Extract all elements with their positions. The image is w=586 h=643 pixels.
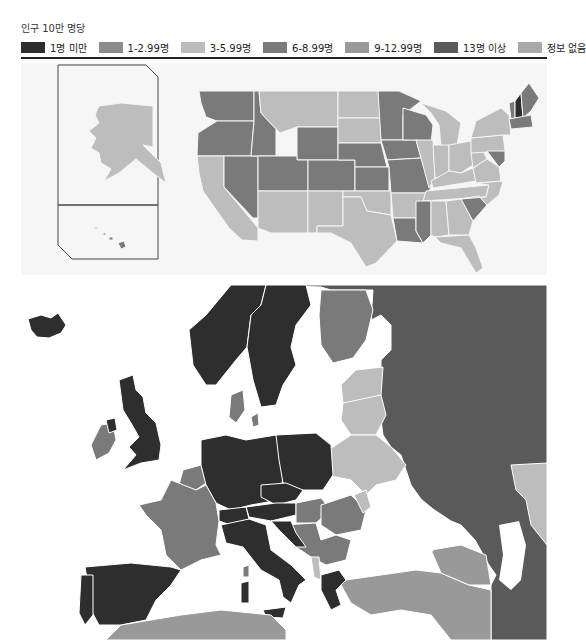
state-wisconsin [403, 108, 433, 143]
state-north-dakota [338, 91, 381, 118]
legend-item-6-8.99: 6-8.99명 [263, 40, 333, 55]
legend-label: 6-8.99명 [292, 40, 333, 55]
legend-item-under-1: 1명 미만 [21, 40, 87, 55]
state-vermont [509, 101, 515, 119]
state-utah [258, 156, 308, 191]
country-spain [85, 563, 181, 625]
country-denmark-islands [251, 413, 259, 427]
country-iceland [28, 313, 66, 338]
legend-swatch [434, 42, 458, 53]
us-map [21, 63, 547, 275]
legend-swatch [99, 42, 123, 53]
country-uk [119, 375, 161, 470]
country-france [139, 480, 221, 570]
country-albania [311, 557, 321, 580]
state-washington [199, 91, 254, 121]
black-sea [376, 513, 441, 557]
state-colorado [308, 160, 355, 191]
legend-label: 13명 이상 [463, 40, 506, 55]
state-alaska [89, 103, 166, 183]
country-finland [319, 290, 373, 363]
state-arizona [258, 191, 308, 233]
country-portugal [79, 575, 93, 625]
legend-item-13-plus: 13명 이상 [434, 40, 506, 55]
legend-item-3-5.99: 3-5.99명 [181, 40, 251, 55]
state-kansas [355, 167, 389, 191]
legend-divider [21, 57, 547, 59]
europe-map-svg [21, 285, 547, 640]
state-oregon [197, 121, 254, 156]
legend-swatch [345, 42, 369, 53]
country-denmark [229, 390, 245, 423]
hawaii-inset-frame [58, 205, 158, 259]
legend-swatch [263, 42, 287, 53]
europe-map [21, 285, 547, 640]
state-iowa [381, 140, 421, 160]
country-greece [321, 570, 346, 610]
legend-item-1-2.99: 1-2.99명 [99, 40, 169, 55]
country-sardinia [241, 581, 249, 603]
state-hawaii [95, 227, 126, 249]
legend-item-9-12.99: 9-12.99명 [345, 40, 422, 55]
legend-label: 1명 미만 [50, 40, 87, 55]
country-poland [276, 433, 333, 490]
legend-label: 정보 없음 [547, 40, 586, 55]
state-maine [521, 83, 539, 118]
country-austria [246, 503, 296, 521]
legend-swatch [21, 42, 45, 53]
us-map-svg [21, 63, 547, 275]
country-corsica [243, 565, 249, 577]
legend-label: 1-2.99명 [128, 40, 169, 55]
legend-swatch [518, 42, 542, 53]
legend-label: 3-5.99명 [210, 40, 251, 55]
legend-label: 9-12.99명 [374, 40, 422, 55]
legend-swatch [181, 42, 205, 53]
legend-item-no-data: 정보 없음 [518, 40, 586, 55]
state-new-york [471, 108, 511, 138]
state-south-dakota [338, 118, 381, 143]
state-florida [435, 235, 483, 273]
legend-title: 인구 10만 명당 [21, 20, 85, 35]
legend: 1명 미만 1-2.99명 3-5.99명 6-8.99명 9-12.99명 1… [21, 38, 547, 56]
state-ohio [449, 141, 473, 173]
state-wyoming [297, 127, 338, 160]
